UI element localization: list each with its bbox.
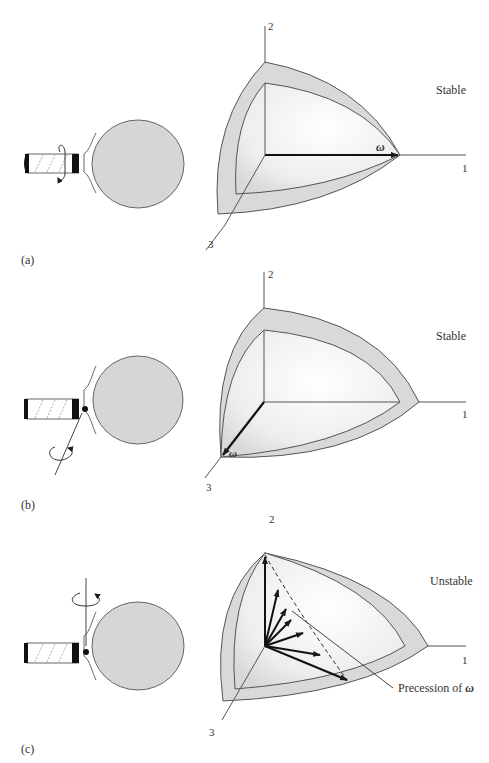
stability-label-a: Stable: [436, 84, 466, 96]
axis-2-label-a: 2: [268, 20, 274, 32]
paddle-a: [24, 120, 184, 208]
stability-label-b: Stable: [436, 330, 466, 342]
paddle-c: [24, 578, 184, 690]
rotation-arrow-icon: [50, 447, 73, 460]
omega-label-b: ω: [229, 447, 237, 459]
figure-canvas: [0, 0, 489, 763]
axis-1-label-b: 1: [462, 408, 468, 420]
axis-3-label-c: 3: [209, 726, 215, 738]
axis-1-label-c: 1: [462, 654, 468, 666]
paddle-b: [24, 356, 183, 475]
panel-a: [24, 26, 466, 250]
axis-3-label-a: 3: [208, 238, 214, 250]
precession-text: Precession of: [398, 681, 462, 695]
caption-a: (a): [21, 254, 34, 266]
omega-label-a: ω: [376, 141, 385, 153]
caption-b: (b): [21, 499, 35, 511]
axis-2-label-c: 2: [269, 513, 275, 525]
axis-1-label-a: 1: [462, 162, 468, 174]
stability-label-c: Unstable: [430, 575, 473, 587]
axis-2-label-b: 2: [268, 268, 274, 280]
axis-3-label-b: 3: [206, 481, 212, 493]
precession-omega: ω: [465, 681, 474, 695]
panel-b: [24, 272, 466, 478]
precession-label: Precession of ω: [398, 682, 474, 694]
caption-c: (c): [21, 743, 34, 755]
